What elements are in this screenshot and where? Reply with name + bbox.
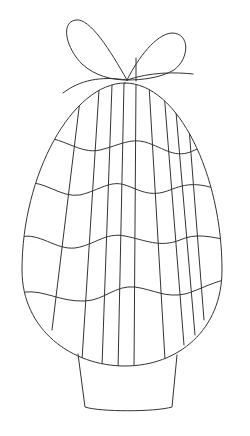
coloring-page-drawing xyxy=(0,0,250,436)
bow-loop-left xyxy=(67,20,127,80)
bow-ribbon-right xyxy=(127,73,193,80)
vertical-stripes xyxy=(52,83,204,370)
egg-stand xyxy=(78,354,177,411)
egg-pattern xyxy=(20,83,235,370)
egg-outline xyxy=(22,83,222,366)
bow-ribbon-left xyxy=(63,79,127,93)
bow xyxy=(63,20,193,93)
